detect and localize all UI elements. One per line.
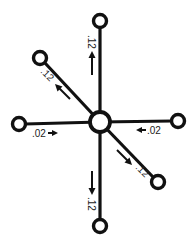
arrow-right-icon <box>48 130 58 136</box>
label-left: .02 <box>32 128 46 139</box>
label-upper-left: .12 <box>39 66 57 84</box>
node-lower-right <box>152 176 165 189</box>
label-top: .12 <box>86 35 97 49</box>
arrow-up-icon <box>89 51 96 75</box>
label-lower-right: .12 <box>134 162 152 180</box>
node-upper-left <box>34 52 47 65</box>
label-bottom: .12 <box>86 197 97 211</box>
label-right: .02 <box>147 125 161 136</box>
node-bottom <box>94 220 107 233</box>
arrow-down-icon <box>89 171 96 195</box>
node-right <box>172 115 185 128</box>
node-top <box>94 15 107 28</box>
node-left <box>13 118 26 131</box>
arrow-left-icon <box>136 127 146 133</box>
node-hub <box>90 112 110 132</box>
hub-spoke-diagram: .12 .12 .02 .02 .12 .12 <box>0 0 195 249</box>
